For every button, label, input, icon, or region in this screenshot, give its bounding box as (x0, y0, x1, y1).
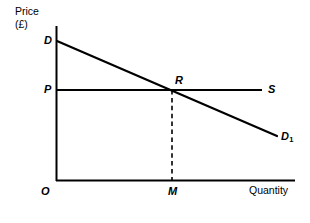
label-demand-end-subscript: 1 (289, 135, 293, 144)
figure-container: Price (£) Quantity D P O R S M D1 (0, 0, 310, 223)
label-supply-end-s: S (268, 83, 275, 95)
label-equilibrium-r: R (175, 74, 183, 86)
label-quantity-level-m: M (168, 185, 177, 197)
label-demand-end-d1: D1 (281, 130, 293, 142)
label-demand-end-base: D (281, 130, 289, 142)
label-origin-o: O (41, 185, 50, 197)
x-axis-title-quantity: Quantity (249, 185, 288, 197)
y-axis-title-price: Price (15, 6, 39, 18)
demand-curve-line (57, 41, 277, 136)
label-demand-intercept-d: D (44, 34, 52, 46)
label-price-level-p: P (44, 83, 51, 95)
y-axis-title-currency: (£) (15, 19, 28, 31)
